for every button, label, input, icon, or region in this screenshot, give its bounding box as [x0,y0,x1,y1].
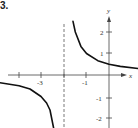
x-tick-label: -3 [37,79,43,87]
y-tick-label: -2 [96,115,102,123]
y-axis-arrow-icon [107,16,111,22]
curve-left-branch [0,83,54,128]
x-tick-label: -1 [82,79,88,87]
curve-right-branch [73,21,138,68]
function-graph: x y -3 -1 2 1 -1 -2 [0,0,138,128]
x-axis-arrow-icon [121,73,127,77]
y-tick-label: 2 [100,29,104,37]
y-tick-label: -1 [96,95,102,103]
y-axis-label: y [106,7,111,15]
x-axis-label: x [128,72,133,80]
y-tick-label: 1 [100,50,104,58]
